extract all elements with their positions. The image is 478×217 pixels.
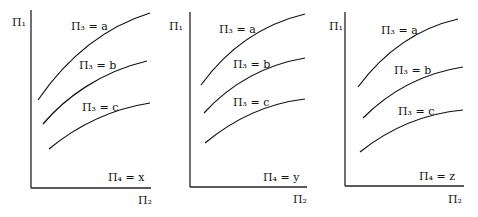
y-axis-label: Π₁ <box>12 16 26 29</box>
curve-b-label: Π₃ = b <box>233 58 270 71</box>
curve-c-label: Π₃ = c <box>233 96 269 109</box>
curve-b-label: Π₃ = b <box>394 64 431 77</box>
parameter-label: Π₄ = x <box>108 171 145 184</box>
x-axis-label: Π₂ <box>293 193 307 206</box>
curve-a-label: Π₃ = a <box>71 20 108 33</box>
parameter-label: Π₄ = z <box>419 170 455 183</box>
curve-a-label: Π₃ = a <box>381 24 418 37</box>
y-axis-label: Π₁ <box>169 20 183 33</box>
panel-pi4-z: Π₁ Π₂ Π₃ = a Π₃ = b Π₃ = c Π₄ = z <box>329 12 464 206</box>
x-axis-label: Π₂ <box>448 193 462 206</box>
panel-pi4-y: Π₁ Π₂ Π₃ = a Π₃ = b Π₃ = c Π₄ = y <box>169 12 307 206</box>
x-axis-label: Π₂ <box>138 194 152 207</box>
curve-c-label: Π₃ = c <box>398 105 434 118</box>
y-axis-label: Π₁ <box>329 20 343 33</box>
curve-b-label: Π₃ = b <box>79 59 116 72</box>
parameter-label: Π₄ = y <box>263 171 300 184</box>
curve-a-label: Π₃ = a <box>219 23 256 36</box>
curve-c-label: Π₃ = c <box>82 101 118 114</box>
panel-pi4-x: Π₁ Π₂ Π₃ = a Π₃ = b Π₃ = c Π₄ = x <box>12 10 152 207</box>
dimensionless-groups-diagram: Π₁ Π₂ Π₃ = a Π₃ = b Π₃ = c Π₄ = x Π₁ Π₂ … <box>0 0 478 217</box>
